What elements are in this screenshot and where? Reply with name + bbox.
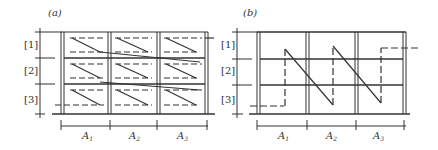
panel-a xyxy=(35,28,215,130)
panel-b-label: (b) xyxy=(243,7,257,18)
panel-b-row-dimension xyxy=(232,28,258,118)
panel-a-paths xyxy=(55,38,214,105)
panel-a-row-label-1: [1] xyxy=(24,39,38,50)
diagram-canvas: (a) [1] [2] [3] A1 A2 A3 (b) [1] [2] [3]… xyxy=(0,0,438,150)
panel-a-label: (a) xyxy=(48,7,62,18)
panel-a-col-label-1: A1 xyxy=(81,130,93,142)
panel-b-paths xyxy=(250,46,418,106)
panel-a-col-label-3: A3 xyxy=(176,130,188,142)
panel-a-column-dimension xyxy=(61,120,208,130)
panel-b-row-label-2: [2] xyxy=(221,65,235,76)
panel-a-col-label-2: A2 xyxy=(128,130,140,142)
panel-a-row-label-2: [2] xyxy=(24,65,38,76)
panel-b-row-label-3: [3] xyxy=(221,94,235,105)
panel-b-col-label-1: A1 xyxy=(277,130,289,142)
panel-b xyxy=(232,28,418,130)
panel-b-col-label-2: A2 xyxy=(325,130,337,142)
panel-a-row-label-3: [3] xyxy=(24,94,38,105)
panel-b-row-label-1: [1] xyxy=(221,39,235,50)
panel-b-column-dimension xyxy=(257,120,406,130)
panel-b-col-label-3: A3 xyxy=(372,130,384,142)
